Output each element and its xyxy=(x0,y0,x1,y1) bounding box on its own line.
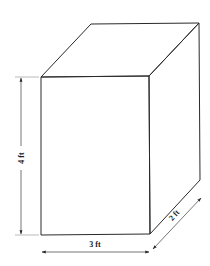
height-label: 4 ft xyxy=(17,152,26,164)
width-dimension: 3 ft xyxy=(42,240,149,252)
top-face xyxy=(41,23,199,77)
width-label: 3 ft xyxy=(89,240,101,249)
depth-label: 2 ft xyxy=(167,208,182,223)
height-dimension: 4 ft xyxy=(15,77,39,235)
prism xyxy=(41,23,200,235)
right-face xyxy=(149,23,200,234)
rectangular-prism-diagram: 4 ft 3 ft 2 ft xyxy=(0,0,210,266)
front-face xyxy=(41,76,150,235)
